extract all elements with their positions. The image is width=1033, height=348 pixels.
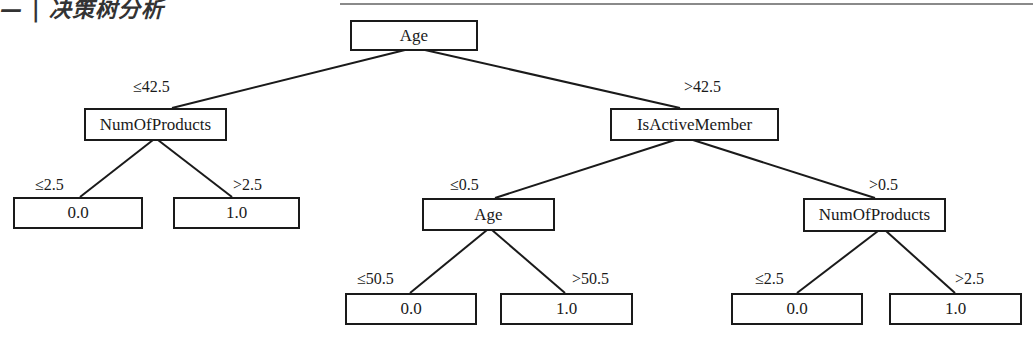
edge-right-left [495,140,675,198]
leaf-left-right: 1.0 [173,197,300,229]
edge-left-left [80,140,153,197]
edge-rl-right [492,230,565,293]
edge-label-root-right: >42.5 [684,78,721,96]
edge-label-root-left: ≤42.5 [133,78,170,96]
node-right-right: NumOfProducts [803,198,946,232]
leaf-rr-right: 1.0 [889,293,1022,325]
node-root: Age [350,20,478,51]
leaf-left-left: 0.0 [13,197,143,229]
edge-right-right [693,140,875,198]
leaf-rl-right: 1.0 [500,293,633,325]
leaf-rr-left: 0.0 [731,293,863,325]
edge-left-right [158,140,232,197]
edge-label-rl-left: ≤50.5 [357,270,394,288]
edge-label-right-left: ≤0.5 [450,176,479,194]
leaf-rl-left: 0.0 [345,293,477,325]
edge-label-rr-right: >2.5 [955,270,984,288]
edge-rr-right [886,231,955,293]
node-right: IsActiveMember [610,108,779,141]
edge-root-right [425,50,680,108]
edge-rr-left [797,231,878,293]
edge-label-rr-left: ≤2.5 [755,270,784,288]
edge-root-left [172,50,405,108]
node-left: NumOfProducts [84,108,227,141]
edge-rl-left [410,230,487,293]
edge-label-right-right: >0.5 [869,176,898,194]
node-right-left: Age [422,198,555,231]
edge-label-rl-right: >50.5 [572,270,609,288]
edge-label-left-left: ≤2.5 [35,176,64,194]
edge-label-left-right: >2.5 [233,176,262,194]
